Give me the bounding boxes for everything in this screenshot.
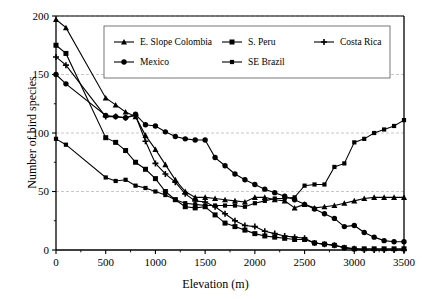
marker-circle: [163, 129, 168, 134]
marker-square-small: [114, 179, 118, 183]
marker-square-small: [183, 201, 187, 205]
marker-square-small: [283, 196, 287, 200]
marker-square-small: [352, 140, 356, 144]
legend-label: Mexico: [140, 57, 169, 67]
marker-square: [113, 140, 118, 145]
marker-square-small: [163, 193, 167, 197]
marker-square-small: [213, 203, 217, 207]
x-tick-label-3000: 3000: [343, 256, 366, 268]
marker-square: [123, 148, 128, 153]
marker-circle: [113, 114, 118, 119]
legend-label: S. Peru: [248, 37, 276, 47]
series-line: [56, 57, 404, 250]
marker-triangle: [123, 109, 129, 115]
marker-square-small: [263, 199, 267, 203]
marker-circle: [332, 216, 337, 221]
marker-square-small: [332, 165, 336, 169]
marker-square-small: [243, 205, 247, 209]
marker-square-small: [372, 131, 376, 135]
y-tick-label-50: 50: [38, 185, 50, 197]
marker-square-small: [124, 178, 128, 182]
marker-square-small: [133, 184, 137, 188]
marker-square-small: [193, 202, 197, 206]
legend: E. Slope ColombiaS. PeruCosta RicaMexico…: [104, 26, 390, 78]
marker-square: [213, 212, 218, 217]
marker-circle: [312, 206, 317, 211]
marker-square-small: [273, 196, 277, 200]
x-tick-label-1500: 1500: [194, 256, 217, 268]
marker-square-small: [143, 186, 147, 190]
marker-circle: [401, 239, 406, 244]
marker-circle: [352, 223, 357, 228]
marker-square-small: [173, 198, 177, 202]
marker-square: [232, 224, 237, 229]
marker-circle: [53, 72, 58, 77]
y-axis-title: Number of bird species: [25, 23, 40, 243]
marker-circle: [123, 115, 128, 120]
marker-circle: [202, 137, 207, 142]
marker-square-small: [104, 175, 108, 179]
marker-triangle: [162, 162, 168, 168]
marker-circle: [362, 230, 367, 235]
marker-square-small: [312, 182, 316, 186]
marker-square: [252, 231, 257, 236]
marker-square-small: [253, 201, 257, 205]
marker-circle: [232, 171, 237, 176]
x-tick-label-500: 500: [97, 256, 114, 268]
marker-circle: [322, 211, 327, 216]
legend-label: E. Slope Colombia: [140, 37, 213, 47]
marker-circle: [391, 239, 396, 244]
marker-circle: [153, 123, 158, 128]
marker-triangle: [113, 102, 119, 108]
series-se-brazil: [54, 118, 406, 209]
marker-circle: [342, 224, 347, 229]
marker-cross: [252, 224, 258, 230]
marker-square: [133, 160, 138, 165]
marker-square: [143, 167, 148, 172]
x-tick-label-1000: 1000: [144, 256, 167, 268]
marker-square-small: [230, 60, 234, 64]
x-tick-label-2000: 2000: [244, 256, 267, 268]
marker-circle: [143, 122, 148, 127]
marker-square: [103, 135, 108, 140]
marker-circle: [252, 182, 257, 187]
marker-circle: [381, 238, 386, 243]
marker-square-small: [223, 203, 227, 207]
marker-square-small: [64, 143, 68, 147]
x-tick-label-2500: 2500: [294, 256, 317, 268]
y-tick-label-0: 0: [44, 244, 50, 256]
marker-circle: [63, 81, 68, 86]
marker-circle: [272, 190, 277, 195]
marker-square-small: [153, 189, 157, 193]
x-tick-label-3500: 3500: [393, 256, 416, 268]
marker-square-small: [382, 127, 386, 131]
marker-circle: [262, 186, 267, 191]
marker-square-small: [233, 203, 237, 207]
marker-circle: [222, 163, 227, 168]
marker-circle: [183, 136, 188, 141]
marker-cross: [262, 228, 268, 234]
marker-circle: [193, 137, 198, 142]
marker-square-small: [362, 137, 366, 141]
chart-figure: 0501001502000500100015002000250030003500…: [0, 0, 431, 299]
x-axis-title: Elevation (m): [0, 277, 431, 292]
marker-square-small: [392, 124, 396, 128]
marker-square: [63, 51, 68, 56]
marker-circle: [103, 113, 108, 118]
marker-square-small: [203, 203, 207, 207]
legend-box: [104, 26, 390, 78]
marker-square: [223, 221, 228, 226]
marker-circle: [212, 155, 217, 160]
marker-square-small: [342, 161, 346, 165]
marker-circle: [173, 134, 178, 139]
legend-label: Costa Rica: [340, 37, 382, 47]
marker-square: [153, 176, 158, 181]
y-tick-label-200: 200: [33, 10, 50, 22]
marker-square-small: [293, 195, 297, 199]
marker-square-small: [322, 182, 326, 186]
marker-circle: [242, 177, 247, 182]
legend-label: SE Brazil: [248, 57, 285, 67]
marker-cross: [242, 222, 248, 228]
marker-triangle: [103, 95, 109, 101]
x-tick-label-0: 0: [53, 256, 59, 268]
